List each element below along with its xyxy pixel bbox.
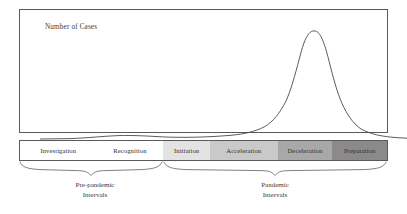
chart-y-axis-label: Number of Cases <box>45 23 97 31</box>
group-braces <box>19 161 389 179</box>
phase-segment-acceleration[interactable]: Acceleration <box>210 141 278 160</box>
phase-interval-bar: Investigation Recognition Initiation Acc… <box>19 140 388 161</box>
phase-segment-recognition[interactable]: Recognition <box>97 141 164 160</box>
group-caption-pandemic-line1: Pandemic <box>220 180 330 190</box>
phase-label-preparation: Preparation <box>344 147 376 154</box>
epidemic-curve <box>40 20 407 142</box>
group-caption-pandemic: Pandemic Intervals <box>220 180 330 200</box>
phase-label-investigation: Investigation <box>40 147 76 154</box>
phase-label-initiation: Initiation <box>174 147 199 154</box>
phase-label-deceleration: Deceleration <box>288 147 323 154</box>
group-caption-pre-pandemic-line2: Intervals <box>40 190 150 200</box>
phase-segment-investigation[interactable]: Investigation <box>20 141 97 160</box>
group-caption-pre-pandemic-line1: Pre-pandemic <box>40 180 150 190</box>
phase-segment-initiation[interactable]: Initiation <box>163 141 210 160</box>
phase-label-recognition: Recognition <box>113 147 146 154</box>
chart-plot-area: Number of Cases <box>19 9 388 133</box>
phase-segment-deceleration[interactable]: Deceleration <box>278 141 333 160</box>
phase-label-acceleration: Acceleration <box>226 147 261 154</box>
phase-segment-preparation[interactable]: Preparation <box>332 141 387 160</box>
group-caption-pre-pandemic: Pre-pandemic Intervals <box>40 180 150 200</box>
group-caption-pandemic-line2: Intervals <box>220 190 330 200</box>
